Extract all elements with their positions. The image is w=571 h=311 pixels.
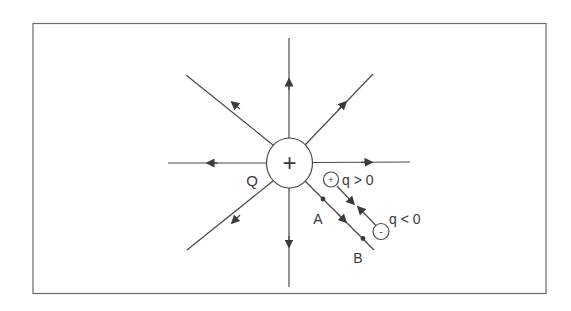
source-charge-label: Q — [246, 172, 258, 189]
positive-test-charge-sign: + — [328, 175, 333, 185]
positive-test-charge-label: q > 0 — [342, 172, 374, 188]
point-a-label: A — [313, 211, 323, 227]
negative-test-charge-force-arrow-icon — [360, 209, 376, 225]
point-b-label: B — [353, 250, 362, 266]
point-b-dot — [361, 236, 366, 241]
field-line-down-left — [187, 181, 273, 250]
negative-test-charge-label: q < 0 — [389, 211, 421, 227]
negative-test-charge-sign: - — [379, 226, 382, 237]
arrow-up-left-icon — [234, 104, 240, 109]
arrow-down-left-icon — [234, 215, 240, 221]
arrow-down-right-icon — [338, 214, 344, 220]
positive-test-charge-force-arrow-icon — [337, 186, 352, 202]
field-diagram: + Q + q > 0 - q < 0 A B — [0, 0, 571, 311]
field-line-up-left — [186, 75, 273, 145]
point-a-dot — [321, 197, 326, 202]
arrow-up-right-icon — [338, 104, 344, 110]
source-charge-sign: + — [282, 149, 296, 176]
